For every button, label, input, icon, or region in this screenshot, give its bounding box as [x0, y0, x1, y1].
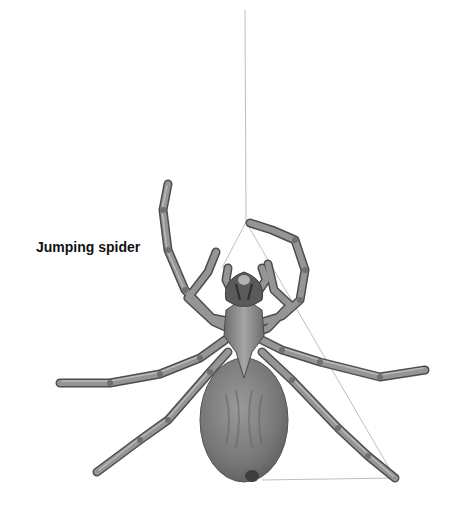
spinnerets	[245, 470, 259, 482]
spider-illustration	[0, 0, 457, 526]
